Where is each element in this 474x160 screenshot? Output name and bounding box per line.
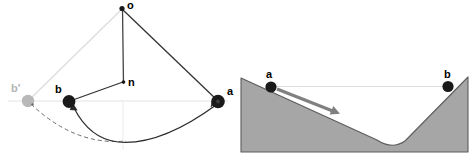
node-a — [265, 81, 276, 92]
segment-n-to-b — [70, 82, 123, 101]
panel-pendulum-geometry: o n b' b a — [0, 0, 237, 160]
node-bprime-tip — [31, 103, 33, 105]
label-a: a — [227, 85, 234, 97]
dashed-arc-bprime — [31, 104, 126, 142]
label-b: b — [55, 83, 62, 95]
rod-o-to-n — [123, 9, 124, 84]
node-b — [63, 95, 76, 108]
node-b — [442, 81, 453, 92]
valley-terrain-svg: a b — [237, 0, 474, 160]
pendulum-geometry-svg: o n b' b a — [0, 0, 237, 160]
figure-root: o n b' b a — [0, 0, 474, 160]
node-a-highlight — [216, 100, 220, 104]
label-o: o — [127, 0, 134, 11]
panel-valley-terrain: a b — [237, 0, 474, 160]
ray-o-to-a — [122, 9, 218, 101]
label-b: b — [444, 68, 451, 80]
label-bprime: b' — [11, 82, 21, 94]
label-n: n — [128, 76, 135, 88]
node-n — [122, 80, 126, 84]
label-a: a — [266, 68, 273, 80]
node-o — [119, 6, 124, 11]
arc-a-to-b — [74, 105, 216, 142]
